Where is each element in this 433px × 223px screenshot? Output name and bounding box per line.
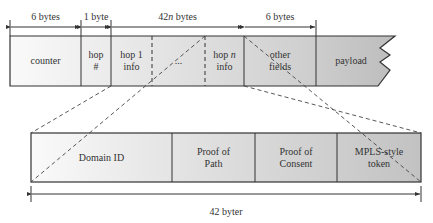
field-mpls-token: MPLS-style token: [337, 146, 421, 170]
dimension-label-counter: 6 bytes: [10, 11, 81, 23]
bottom-dimension-line: [31, 186, 421, 202]
packet-diagram: [0, 0, 433, 223]
field-ellipsis: ...: [152, 55, 205, 67]
dimension-label-other-fields: 6 bytes: [244, 11, 316, 23]
field-hop-n-info: hop ninfo: [205, 49, 244, 73]
field-domain-id: Domain ID: [31, 152, 172, 164]
field-proof-of-path: Proof of Path: [172, 146, 255, 170]
field-counter: counter: [10, 55, 81, 67]
dimension-label-total: 42 byter: [186, 206, 266, 218]
field-proof-of-consent: Proof of Consent: [255, 146, 337, 170]
field-hop-count: hop #: [81, 49, 111, 73]
field-payload: payload: [316, 55, 386, 67]
dimension-label-hop-info: 42n bytes: [111, 11, 244, 23]
field-other-fields: other fields: [244, 49, 316, 73]
field-hop-1-info: hop 1 info: [111, 49, 152, 73]
dimension-label-hop-count: 1 byte: [81, 11, 111, 23]
